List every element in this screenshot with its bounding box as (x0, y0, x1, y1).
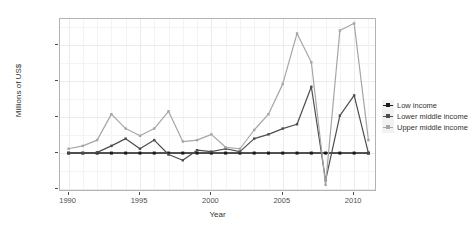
data-point-marker (353, 152, 356, 155)
data-point-marker (338, 152, 341, 155)
data-point-marker (224, 146, 226, 148)
x-axis-tick-mark (282, 192, 283, 195)
data-point-marker (324, 184, 326, 186)
legend-swatch-icon (382, 100, 394, 111)
data-point-marker (267, 152, 270, 155)
legend-item[interactable]: Lower middle income (382, 111, 468, 122)
data-point-marker (153, 127, 155, 129)
data-point-marker (310, 86, 312, 88)
legend-item-label: Low income (397, 100, 437, 111)
data-point-marker (110, 145, 112, 147)
data-point-marker (239, 148, 241, 150)
y-axis-tick-mark (55, 44, 58, 45)
data-point-marker (296, 152, 299, 155)
chart-legend: Low incomeLower middle incomeUpper middl… (382, 100, 468, 133)
x-axis-tick-mark (353, 192, 354, 195)
data-point-marker (339, 114, 341, 116)
data-point-marker (353, 94, 355, 96)
data-point-marker (110, 152, 113, 155)
data-point-marker (196, 139, 198, 141)
y-axis-tick-mark (55, 188, 58, 189)
data-point-marker (367, 139, 369, 141)
data-point-marker (139, 148, 141, 150)
y-axis-tick-mark (55, 80, 58, 81)
data-point-marker (124, 152, 127, 155)
data-point-marker (367, 152, 369, 154)
x-axis-tick-mark (139, 192, 140, 195)
data-point-marker (267, 133, 269, 135)
data-point-marker (196, 152, 199, 155)
data-point-marker (82, 152, 84, 154)
legend-swatch-icon (382, 122, 394, 133)
data-point-marker (138, 152, 141, 155)
data-point-marker (210, 150, 212, 152)
data-point-marker (281, 152, 284, 155)
data-point-marker (110, 113, 112, 115)
data-point-marker (296, 32, 298, 34)
data-point-marker (210, 133, 212, 135)
data-point-marker (196, 149, 198, 151)
chart-figure: Millions of US$ $-25,000$0$25,000$50,000… (0, 0, 475, 230)
legend-item-label: Lower middle income (397, 111, 468, 122)
data-point-marker (224, 152, 227, 155)
data-point-marker (182, 140, 184, 142)
legend-item[interactable]: Low income (382, 100, 468, 111)
data-point-marker (182, 159, 184, 161)
data-point-marker (167, 110, 169, 112)
y-axis-title: Millions of US$ (14, 46, 23, 136)
data-point-marker (139, 135, 141, 137)
x-axis-tick-label: 2000 (190, 196, 230, 205)
data-point-marker (310, 152, 313, 155)
data-point-marker (82, 145, 84, 147)
data-point-marker (253, 129, 255, 131)
x-axis-tick-label: 2010 (333, 196, 373, 205)
data-point-marker (282, 83, 284, 85)
x-axis-tick-label: 2005 (262, 196, 302, 205)
series-low-income (67, 152, 370, 155)
x-axis-tick-mark (210, 192, 211, 195)
legend-item[interactable]: Upper middle income (382, 122, 468, 133)
data-point-marker (239, 150, 241, 152)
data-point-marker (181, 152, 184, 155)
data-point-marker (253, 137, 255, 139)
series-lower-middle-income (67, 86, 369, 182)
x-axis-tick-mark (68, 192, 69, 195)
data-point-marker (253, 152, 256, 155)
data-point-marker (339, 29, 341, 31)
legend-item-label: Upper middle income (397, 122, 468, 133)
data-point-marker (282, 127, 284, 129)
data-point-marker (353, 22, 355, 24)
data-point-marker (124, 127, 126, 129)
data-point-marker (296, 123, 298, 125)
data-point-marker (324, 152, 327, 155)
series-upper-middle-income (67, 22, 369, 186)
data-point-marker (167, 153, 169, 155)
data-point-marker (67, 152, 69, 154)
legend-swatch-icon (382, 111, 394, 122)
plot-panel (59, 18, 376, 191)
data-point-marker (124, 137, 126, 139)
y-axis-tick-mark (55, 116, 58, 117)
data-point-marker (67, 148, 69, 150)
plot-lines (60, 19, 376, 191)
y-axis-tick-mark (55, 152, 58, 153)
data-point-marker (153, 152, 156, 155)
data-point-marker (96, 139, 98, 141)
data-point-marker (310, 61, 312, 63)
x-axis-tick-label: 1995 (119, 196, 159, 205)
x-axis-tick-label: 1990 (48, 196, 88, 205)
data-point-marker (267, 113, 269, 115)
data-point-marker (96, 151, 98, 153)
series-line (69, 23, 369, 184)
data-point-marker (153, 139, 155, 141)
x-axis-title: Year (59, 210, 376, 219)
